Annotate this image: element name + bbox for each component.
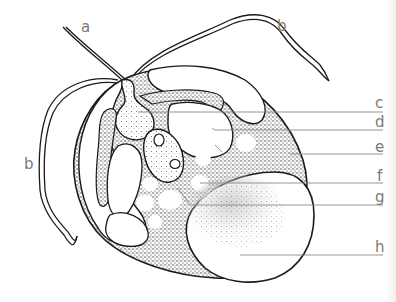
label-a: a [81, 20, 90, 35]
leader-lines [0, 0, 396, 302]
label-c: c [375, 96, 383, 111]
leader-e-bend [215, 145, 222, 152]
label-h: h [375, 240, 385, 255]
label-e: e [375, 140, 384, 155]
label-f: f [377, 169, 382, 184]
label-b-left: b [24, 157, 34, 172]
leader-g-diag [178, 188, 190, 205]
label-d: d [375, 115, 385, 130]
leader-d-bend [212, 128, 215, 130]
label-b-top: b [277, 19, 287, 34]
diagram-canvas: a b b c d e f g h [0, 0, 396, 302]
label-g: g [375, 190, 385, 205]
